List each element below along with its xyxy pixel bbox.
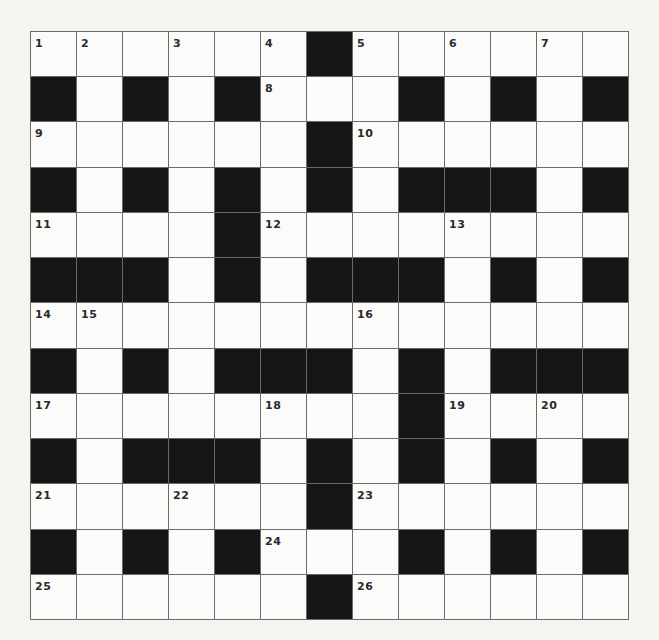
answer-cell[interactable] bbox=[261, 484, 306, 528]
answer-cell[interactable] bbox=[123, 484, 168, 528]
answer-cell[interactable] bbox=[307, 77, 352, 121]
answer-cell[interactable]: 4 bbox=[261, 32, 306, 76]
answer-cell[interactable]: 8 bbox=[261, 77, 306, 121]
answer-cell[interactable]: 12 bbox=[261, 213, 306, 257]
answer-cell[interactable] bbox=[445, 122, 490, 166]
answer-cell[interactable]: 11 bbox=[31, 213, 76, 257]
answer-cell[interactable] bbox=[169, 213, 214, 257]
answer-cell[interactable] bbox=[261, 575, 306, 619]
answer-cell[interactable] bbox=[537, 484, 582, 528]
answer-cell[interactable] bbox=[123, 122, 168, 166]
answer-cell[interactable] bbox=[261, 168, 306, 212]
answer-cell[interactable] bbox=[261, 303, 306, 347]
answer-cell[interactable] bbox=[445, 349, 490, 393]
answer-cell[interactable]: 9 bbox=[31, 122, 76, 166]
answer-cell[interactable] bbox=[491, 213, 536, 257]
answer-cell[interactable] bbox=[261, 122, 306, 166]
answer-cell[interactable] bbox=[583, 213, 628, 257]
answer-cell[interactable] bbox=[399, 303, 444, 347]
answer-cell[interactable]: 10 bbox=[353, 122, 398, 166]
answer-cell[interactable] bbox=[215, 32, 260, 76]
answer-cell[interactable] bbox=[307, 530, 352, 574]
answer-cell[interactable] bbox=[537, 122, 582, 166]
answer-cell[interactable] bbox=[169, 77, 214, 121]
answer-cell[interactable]: 22 bbox=[169, 484, 214, 528]
answer-cell[interactable] bbox=[77, 122, 122, 166]
answer-cell[interactable] bbox=[537, 439, 582, 483]
answer-cell[interactable] bbox=[123, 303, 168, 347]
answer-cell[interactable] bbox=[169, 530, 214, 574]
answer-cell[interactable] bbox=[537, 168, 582, 212]
answer-cell[interactable]: 19 bbox=[445, 394, 490, 438]
answer-cell[interactable] bbox=[215, 575, 260, 619]
answer-cell[interactable] bbox=[445, 484, 490, 528]
answer-cell[interactable] bbox=[77, 530, 122, 574]
answer-cell[interactable]: 21 bbox=[31, 484, 76, 528]
answer-cell[interactable]: 2 bbox=[77, 32, 122, 76]
answer-cell[interactable]: 24 bbox=[261, 530, 306, 574]
answer-cell[interactable] bbox=[261, 439, 306, 483]
answer-cell[interactable] bbox=[445, 303, 490, 347]
answer-cell[interactable]: 18 bbox=[261, 394, 306, 438]
answer-cell[interactable] bbox=[491, 303, 536, 347]
answer-cell[interactable] bbox=[491, 575, 536, 619]
answer-cell[interactable] bbox=[307, 394, 352, 438]
answer-cell[interactable] bbox=[77, 77, 122, 121]
answer-cell[interactable] bbox=[353, 530, 398, 574]
answer-cell[interactable]: 5 bbox=[353, 32, 398, 76]
answer-cell[interactable] bbox=[399, 213, 444, 257]
answer-cell[interactable]: 26 bbox=[353, 575, 398, 619]
answer-cell[interactable] bbox=[537, 575, 582, 619]
answer-cell[interactable] bbox=[537, 77, 582, 121]
answer-cell[interactable] bbox=[583, 484, 628, 528]
answer-cell[interactable]: 13 bbox=[445, 213, 490, 257]
answer-cell[interactable] bbox=[169, 303, 214, 347]
answer-cell[interactable]: 23 bbox=[353, 484, 398, 528]
answer-cell[interactable] bbox=[537, 303, 582, 347]
answer-cell[interactable] bbox=[169, 575, 214, 619]
answer-cell[interactable] bbox=[583, 303, 628, 347]
answer-cell[interactable] bbox=[77, 213, 122, 257]
answer-cell[interactable] bbox=[353, 168, 398, 212]
answer-cell[interactable] bbox=[399, 32, 444, 76]
answer-cell[interactable] bbox=[445, 530, 490, 574]
answer-cell[interactable] bbox=[353, 439, 398, 483]
answer-cell[interactable] bbox=[353, 213, 398, 257]
answer-cell[interactable] bbox=[353, 77, 398, 121]
answer-cell[interactable] bbox=[353, 394, 398, 438]
answer-cell[interactable] bbox=[583, 122, 628, 166]
answer-cell[interactable]: 3 bbox=[169, 32, 214, 76]
answer-cell[interactable] bbox=[169, 258, 214, 302]
answer-cell[interactable] bbox=[307, 213, 352, 257]
answer-cell[interactable] bbox=[215, 303, 260, 347]
answer-cell[interactable]: 7 bbox=[537, 32, 582, 76]
answer-cell[interactable] bbox=[445, 77, 490, 121]
answer-cell[interactable] bbox=[261, 258, 306, 302]
answer-cell[interactable] bbox=[307, 303, 352, 347]
answer-cell[interactable]: 17 bbox=[31, 394, 76, 438]
answer-cell[interactable] bbox=[77, 439, 122, 483]
answer-cell[interactable] bbox=[77, 575, 122, 619]
answer-cell[interactable] bbox=[583, 575, 628, 619]
answer-cell[interactable]: 25 bbox=[31, 575, 76, 619]
answer-cell[interactable] bbox=[537, 258, 582, 302]
answer-cell[interactable] bbox=[169, 394, 214, 438]
answer-cell[interactable] bbox=[123, 394, 168, 438]
answer-cell[interactable] bbox=[169, 122, 214, 166]
answer-cell[interactable] bbox=[215, 394, 260, 438]
answer-cell[interactable] bbox=[491, 32, 536, 76]
answer-cell[interactable] bbox=[399, 575, 444, 619]
answer-cell[interactable] bbox=[399, 484, 444, 528]
answer-cell[interactable] bbox=[491, 394, 536, 438]
answer-cell[interactable] bbox=[399, 122, 444, 166]
answer-cell[interactable]: 6 bbox=[445, 32, 490, 76]
answer-cell[interactable] bbox=[353, 349, 398, 393]
answer-cell[interactable] bbox=[77, 168, 122, 212]
answer-cell[interactable] bbox=[445, 575, 490, 619]
answer-cell[interactable]: 20 bbox=[537, 394, 582, 438]
answer-cell[interactable] bbox=[445, 258, 490, 302]
answer-cell[interactable] bbox=[123, 32, 168, 76]
answer-cell[interactable] bbox=[491, 122, 536, 166]
answer-cell[interactable] bbox=[445, 439, 490, 483]
answer-cell[interactable] bbox=[77, 394, 122, 438]
